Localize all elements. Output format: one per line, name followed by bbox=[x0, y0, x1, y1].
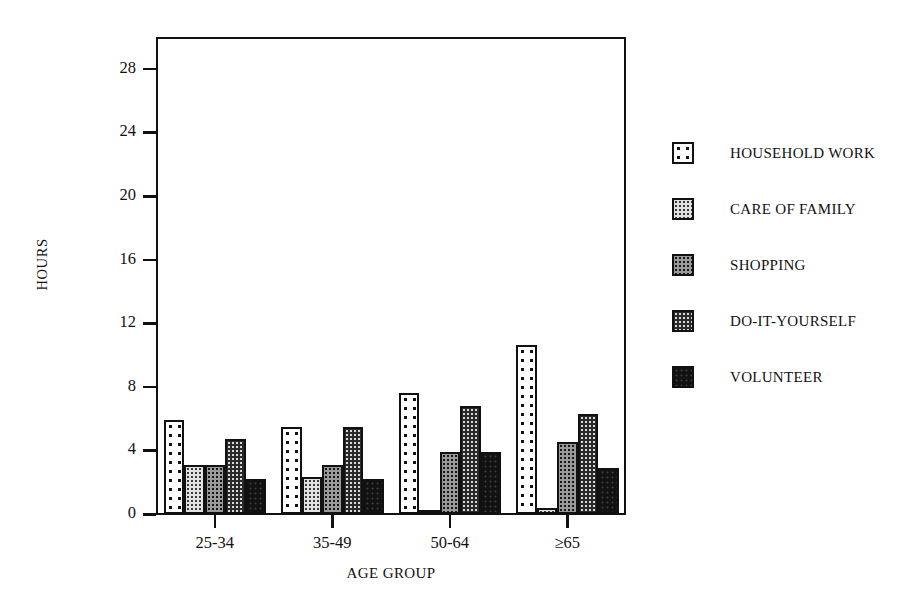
y-tick-mark bbox=[143, 513, 156, 516]
y-tick-label: 20 bbox=[120, 184, 137, 206]
x-tick-mark bbox=[449, 515, 452, 528]
legend-label: DO-IT-YOURSELF bbox=[730, 313, 856, 330]
bar-chart-figure: HOURS 0481216202428 25-3435-4950-64≥65 A… bbox=[0, 0, 922, 607]
legend-item[interactable]: SHOPPING bbox=[672, 252, 806, 278]
bar bbox=[598, 468, 619, 514]
bar bbox=[419, 510, 440, 514]
legend-item[interactable]: CARE OF FAMILY bbox=[672, 196, 856, 222]
y-tick-label: 4 bbox=[128, 438, 136, 460]
bar bbox=[557, 442, 578, 514]
y-tick-mark bbox=[143, 449, 156, 452]
x-tick-mark bbox=[331, 515, 334, 528]
y-tick-mark bbox=[143, 68, 156, 71]
bar bbox=[343, 427, 364, 514]
x-tick-label: 25-34 bbox=[155, 533, 275, 553]
bar bbox=[184, 465, 205, 514]
bar bbox=[363, 479, 384, 514]
bar bbox=[399, 393, 420, 514]
bar bbox=[225, 439, 246, 514]
legend-swatch bbox=[672, 310, 694, 332]
bar bbox=[205, 465, 226, 514]
legend-item[interactable]: DO-IT-YOURSELF bbox=[672, 308, 856, 334]
y-tick-mark bbox=[143, 322, 156, 325]
bar bbox=[481, 452, 502, 514]
legend-item[interactable]: VOLUNTEER bbox=[672, 364, 823, 390]
bar bbox=[516, 345, 537, 514]
y-tick-label: 24 bbox=[120, 120, 137, 142]
y-tick-label: 8 bbox=[128, 375, 136, 397]
legend-swatch bbox=[672, 254, 694, 276]
y-tick-label: 12 bbox=[120, 311, 137, 333]
y-tick-mark bbox=[143, 131, 156, 134]
x-tick-label: 50-64 bbox=[390, 533, 510, 553]
bar bbox=[246, 479, 267, 514]
bar bbox=[460, 406, 481, 514]
y-tick-label: 16 bbox=[120, 248, 137, 270]
x-tick-label: 35-49 bbox=[272, 533, 392, 553]
x-axis-title: AGE GROUP bbox=[156, 565, 626, 582]
bar bbox=[302, 477, 323, 514]
bar bbox=[164, 420, 185, 514]
x-tick-mark bbox=[566, 515, 569, 528]
legend-label: VOLUNTEER bbox=[730, 369, 823, 386]
y-axis-title: HOURS bbox=[34, 205, 51, 325]
legend-label: SHOPPING bbox=[730, 257, 806, 274]
y-tick-mark bbox=[143, 386, 156, 389]
legend-label: CARE OF FAMILY bbox=[730, 201, 856, 218]
x-tick-label: ≥65 bbox=[507, 533, 627, 553]
y-tick-mark bbox=[143, 195, 156, 198]
x-tick-mark bbox=[214, 515, 217, 528]
legend-label: HOUSEHOLD WORK bbox=[730, 145, 875, 162]
bar bbox=[322, 465, 343, 514]
legend-swatch bbox=[672, 366, 694, 388]
legend-swatch bbox=[672, 198, 694, 220]
bars-layer bbox=[156, 37, 626, 514]
legend-item[interactable]: HOUSEHOLD WORK bbox=[672, 140, 875, 166]
legend-swatch bbox=[672, 142, 694, 164]
y-tick-label: 0 bbox=[128, 502, 136, 524]
bar bbox=[281, 427, 302, 514]
bar bbox=[440, 452, 461, 514]
y-tick-mark bbox=[143, 259, 156, 262]
bar bbox=[578, 414, 599, 514]
y-tick-label: 28 bbox=[120, 57, 137, 79]
bar bbox=[537, 508, 558, 514]
